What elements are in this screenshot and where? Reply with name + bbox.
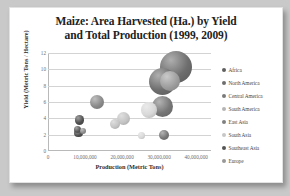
chart-title-line-1: Maize: Area Harvested (Ha.) by Yield	[24, 15, 268, 29]
legend-label: Central America	[229, 93, 263, 99]
legend-marker-icon	[222, 94, 226, 98]
y-axis-tick: 8	[43, 83, 46, 89]
legend-marker-icon	[222, 146, 226, 150]
gridline	[48, 53, 211, 54]
legend-marker-icon	[222, 68, 226, 72]
x-axis-tick: 20,000,000	[102, 154, 142, 160]
plot-area-wrapper	[48, 53, 211, 151]
bubble-africa	[75, 115, 84, 124]
legend-item-south-america[interactable]: South America	[222, 102, 283, 115]
x-axis-tick: 30,000,000	[139, 154, 179, 160]
screenshot-root: Maize: Area Harvested (Ha.) by Yield and…	[0, 0, 290, 196]
x-axis-tick: 0	[28, 154, 68, 160]
legend-marker-icon	[222, 107, 226, 111]
bubble-europe	[160, 71, 180, 91]
x-axis-tick: 40,000,000	[176, 154, 216, 160]
bubble-central-america	[90, 95, 104, 109]
y-axis-tick-labels: 024681012	[30, 48, 46, 156]
gridline	[48, 102, 211, 103]
y-axis-title: Yield (Metric Tons / Hectare)	[22, 15, 29, 125]
legend-label: Southeast Asia	[229, 145, 260, 151]
legend-label: Africa	[229, 67, 242, 73]
legend-marker-icon	[222, 120, 226, 124]
y-axis-tick: 4	[43, 115, 46, 121]
legend-item-north-america[interactable]: North America	[222, 76, 283, 89]
legend-item-europe[interactable]: Europe	[222, 154, 283, 167]
chart-title-line-2: and Total Production (1999, 2009)	[24, 29, 268, 43]
chart-card: Maize: Area Harvested (Ha.) by Yield and…	[9, 7, 283, 183]
x-axis-tick: 10,000,000	[65, 154, 105, 160]
legend-label: East Asia	[229, 119, 248, 125]
x-axis-title: Production (Metric Tons)	[48, 163, 211, 170]
bubble-south-asia	[141, 102, 157, 118]
gridline	[48, 135, 211, 136]
gridline	[48, 86, 211, 87]
legend-item-central-america[interactable]: Central America	[222, 89, 283, 102]
y-axis-tick: 10	[41, 66, 46, 72]
legend-item-east-asia[interactable]: East Asia	[222, 115, 283, 128]
legend-marker-icon	[222, 159, 226, 163]
legend-item-africa[interactable]: Africa	[222, 63, 283, 76]
bubble-south-asia	[138, 132, 145, 139]
legend-label: South America	[229, 106, 260, 112]
legend-label: North America	[229, 80, 260, 86]
legend-marker-icon	[222, 81, 226, 85]
y-axis-tick: 6	[43, 99, 46, 105]
chart-legend: AfricaNorth AmericaCentral AmericaSouth …	[222, 63, 283, 167]
y-axis-tick: 2	[43, 132, 46, 138]
y-axis-tick: 12	[41, 50, 46, 56]
legend-label: South Asia	[229, 132, 252, 138]
legend-marker-icon	[222, 133, 226, 137]
legend-label: Europe	[229, 158, 244, 164]
legend-item-southeast-asia[interactable]: Southeast Asia	[222, 141, 283, 154]
chart-title: Maize: Area Harvested (Ha.) by Yield and…	[24, 15, 268, 42]
legend-item-south-asia[interactable]: South Asia	[222, 128, 283, 141]
